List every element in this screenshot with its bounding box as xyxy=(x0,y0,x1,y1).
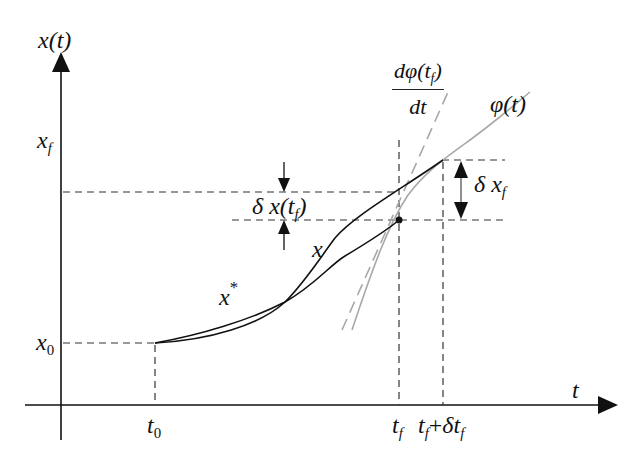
y-axis-label: x(t) xyxy=(38,28,71,52)
x-axis-arrow-icon xyxy=(598,396,618,414)
tangent-line xyxy=(342,92,448,330)
y-axis-arrow-icon xyxy=(52,52,70,72)
label-phi: φ(t) xyxy=(490,92,526,116)
x-axis-label: t xyxy=(572,378,579,402)
tick-t-f-plus-delta: tf+δtf xyxy=(418,413,464,441)
label-tangent-derivative: dφ(tf) dt xyxy=(392,60,444,118)
label-x-star: x* xyxy=(219,280,238,309)
diagram-canvas: x(t) t xf x0 t0 tf tf+δtf x* x φ(t) dφ(t… xyxy=(0,0,644,467)
optimal-curve-x-star xyxy=(155,220,399,343)
endpoint-dot xyxy=(396,217,403,224)
phi-curve xyxy=(352,92,530,330)
varied-curve-x xyxy=(155,160,443,343)
arrow-down-icon xyxy=(278,178,290,192)
tick-t-0: t0 xyxy=(147,413,161,441)
tick-x-0: x0 xyxy=(36,330,54,358)
delta-x-f-arrow xyxy=(454,161,468,219)
x-axis xyxy=(25,396,618,414)
diagram-graphics xyxy=(0,0,644,467)
arrow-up-icon xyxy=(454,161,468,178)
arrow-down-icon xyxy=(454,202,468,219)
label-delta-x-tf: δ x(tf) xyxy=(252,194,307,222)
label-delta-x-f: δ xf xyxy=(474,172,506,200)
tick-x-f: xf xyxy=(37,128,52,156)
y-axis xyxy=(52,52,70,440)
arrow-up-icon xyxy=(278,220,290,234)
label-x: x xyxy=(312,237,323,261)
tick-t-f: tf xyxy=(392,413,403,441)
